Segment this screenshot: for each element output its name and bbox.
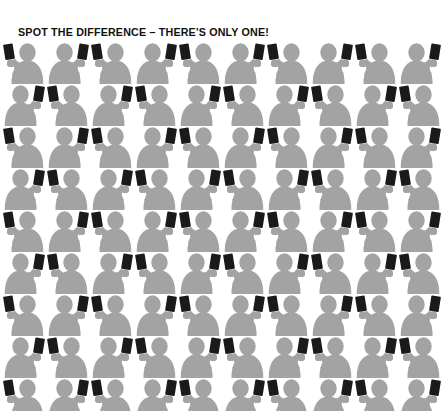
person-holding-phone-icon	[46, 124, 90, 168]
crowd-figure	[178, 208, 222, 252]
person-holding-phone-icon	[266, 208, 310, 252]
crowd-row	[0, 250, 442, 292]
person-holding-phone-icon	[90, 82, 134, 126]
person-holding-phone-icon	[90, 40, 134, 84]
person-holding-phone-icon	[90, 376, 134, 411]
person-holding-phone-icon	[222, 40, 266, 84]
crowd-figure	[46, 82, 90, 126]
person-holding-phone-icon	[398, 82, 442, 126]
person-holding-phone-icon	[266, 166, 310, 210]
person-holding-phone-icon	[266, 292, 310, 336]
person-holding-phone-icon	[2, 166, 46, 210]
person-holding-phone-icon	[178, 124, 222, 168]
crowd-figure	[90, 376, 134, 411]
person-holding-phone-icon	[178, 166, 222, 210]
person-holding-phone-icon	[2, 376, 46, 411]
person-holding-phone-icon	[398, 250, 442, 294]
crowd-figure	[398, 208, 442, 252]
crowd-figure	[90, 208, 134, 252]
crowd-figure	[398, 334, 442, 378]
person-holding-phone-icon	[134, 376, 178, 411]
person-holding-phone-icon	[354, 124, 398, 168]
person-holding-phone-icon	[2, 292, 46, 336]
crowd-figure	[398, 250, 442, 294]
person-holding-phone-icon	[354, 334, 398, 378]
crowd-figure	[46, 40, 90, 84]
crowd-row	[0, 334, 442, 376]
person-holding-phone-icon	[266, 82, 310, 126]
crowd-figure	[266, 166, 310, 210]
person-holding-phone-icon	[222, 376, 266, 411]
person-holding-phone-icon	[310, 124, 354, 168]
spot-the-difference-poster: SPOT THE DIFFERENCE – THERE'S ONLY ONE!	[0, 0, 442, 411]
crowd-figure	[2, 166, 46, 210]
crowd-figure	[90, 40, 134, 84]
crowd-figure	[2, 292, 46, 336]
person-holding-phone-icon	[2, 334, 46, 378]
crowd-figure	[46, 124, 90, 168]
person-holding-phone-icon	[310, 292, 354, 336]
person-holding-phone-icon	[222, 124, 266, 168]
crowd-figure	[310, 124, 354, 168]
page-title: SPOT THE DIFFERENCE – THERE'S ONLY ONE!	[18, 26, 269, 38]
crowd-figure	[178, 82, 222, 126]
person-holding-phone-icon	[46, 40, 90, 84]
crowd-figure	[354, 376, 398, 411]
crowd-figure	[178, 166, 222, 210]
crowd-figure	[2, 334, 46, 378]
crowd-figure	[266, 82, 310, 126]
person-holding-phone-icon	[354, 376, 398, 411]
person-holding-phone-icon	[46, 166, 90, 210]
crowd-figure	[134, 124, 178, 168]
crowd-figure	[134, 208, 178, 252]
person-holding-phone-icon	[90, 124, 134, 168]
person-holding-phone-icon	[398, 124, 442, 168]
crowd-figure	[266, 250, 310, 294]
crowd-figure	[398, 376, 442, 411]
person-holding-phone-icon	[134, 250, 178, 294]
crowd-figure	[398, 82, 442, 126]
crowd-figure	[134, 334, 178, 378]
crowd-figure	[2, 376, 46, 411]
person-holding-phone-icon	[222, 208, 266, 252]
person-holding-phone-icon	[398, 376, 442, 411]
person-holding-phone-icon	[310, 40, 354, 84]
person-holding-phone-icon	[90, 334, 134, 378]
crowd-row	[0, 82, 442, 124]
crowd-figure	[2, 40, 46, 84]
person-holding-phone-icon	[354, 40, 398, 84]
crowd-figure	[2, 208, 46, 252]
crowd-figure	[398, 40, 442, 84]
crowd-figure	[222, 292, 266, 336]
crowd-figure	[266, 40, 310, 84]
crowd-figure	[178, 40, 222, 84]
person-holding-phone-icon	[178, 82, 222, 126]
person-holding-phone-icon	[178, 292, 222, 336]
crowd-figure	[310, 334, 354, 378]
crowd-figure	[354, 82, 398, 126]
person-holding-phone-icon	[222, 250, 266, 294]
crowd-figure	[266, 376, 310, 411]
person-holding-phone-icon	[222, 82, 266, 126]
crowd-figure	[90, 334, 134, 378]
crowd-figure	[222, 250, 266, 294]
crowd-figure	[222, 208, 266, 252]
person-holding-phone-icon	[310, 82, 354, 126]
crowd-figure	[354, 40, 398, 84]
person-holding-phone-icon	[134, 166, 178, 210]
person-holding-phone-icon	[46, 376, 90, 411]
person-holding-phone-icon	[398, 40, 442, 84]
crowd-figure	[354, 292, 398, 336]
crowd-figure	[266, 292, 310, 336]
crowd-figure	[354, 334, 398, 378]
person-holding-phone-icon	[222, 334, 266, 378]
crowd-figure	[354, 250, 398, 294]
crowd-figure	[222, 124, 266, 168]
person-holding-phone-icon	[46, 208, 90, 252]
person-holding-phone-icon	[134, 334, 178, 378]
person-holding-phone-icon	[266, 40, 310, 84]
person-holding-phone-icon	[398, 208, 442, 252]
person-holding-phone-icon	[46, 292, 90, 336]
person-holding-phone-icon	[222, 166, 266, 210]
crowd-figure	[134, 376, 178, 411]
